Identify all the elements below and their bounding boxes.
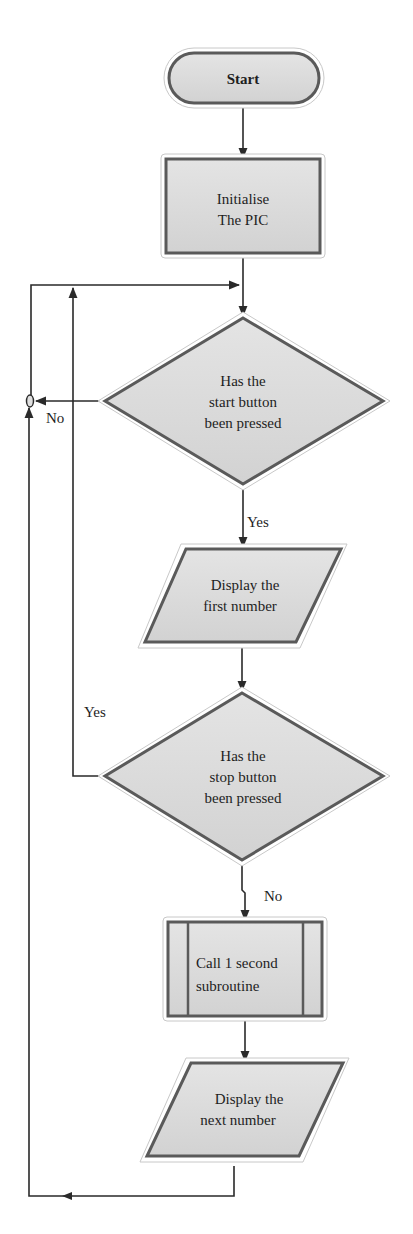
node-start-check-line-3: been pressed	[204, 415, 282, 431]
arrowhead-bottom-return	[62, 1192, 72, 1200]
node-call-sub: Call 1 second subroutine	[163, 917, 327, 1021]
node-start-check-line-1: Has the	[220, 373, 266, 389]
edges	[27, 102, 246, 1200]
flowchart-canvas: Start Initialise The PIC Has the start b…	[0, 0, 413, 1234]
node-display-first: Display the first number	[138, 544, 347, 648]
node-start-check: Has the start button been pressed	[98, 312, 390, 490]
edge-stop-check-yes	[73, 288, 105, 776]
node-start: Start	[164, 48, 324, 108]
node-init: Initialise The PIC	[161, 154, 325, 258]
node-display-next-line-2: next number	[200, 1112, 275, 1128]
node-display-first-line-2: first number	[203, 598, 277, 614]
node-display-first-line-1: Display the	[211, 577, 280, 593]
edge-label-stop-yes: Yes	[84, 704, 106, 720]
junction-connector	[27, 395, 34, 407]
node-display-next: Display the next number	[140, 1058, 349, 1162]
node-display-next-line-1: Display the	[215, 1091, 284, 1107]
node-stop-check-line-1: Has the	[220, 748, 266, 764]
node-init-line-1: Initialise	[217, 191, 270, 207]
node-call-sub-line-2: subroutine	[196, 978, 260, 994]
node-start-check-line-2: start button	[209, 394, 277, 410]
node-stop-check-line-2: stop button	[209, 769, 277, 785]
edge-stop-check-no	[242, 861, 245, 920]
node-call-sub-line-1: Call 1 second	[196, 955, 278, 971]
edge-label-start-yes: Yes	[247, 514, 269, 530]
node-start-label: Start	[227, 71, 260, 87]
edge-label-stop-no: No	[264, 888, 282, 904]
edge-label-start-no: No	[46, 410, 64, 426]
node-init-line-2: The PIC	[218, 212, 268, 228]
node-stop-check-line-3: been pressed	[204, 790, 282, 806]
node-stop-check: Has the stop button been pressed	[98, 687, 390, 866]
